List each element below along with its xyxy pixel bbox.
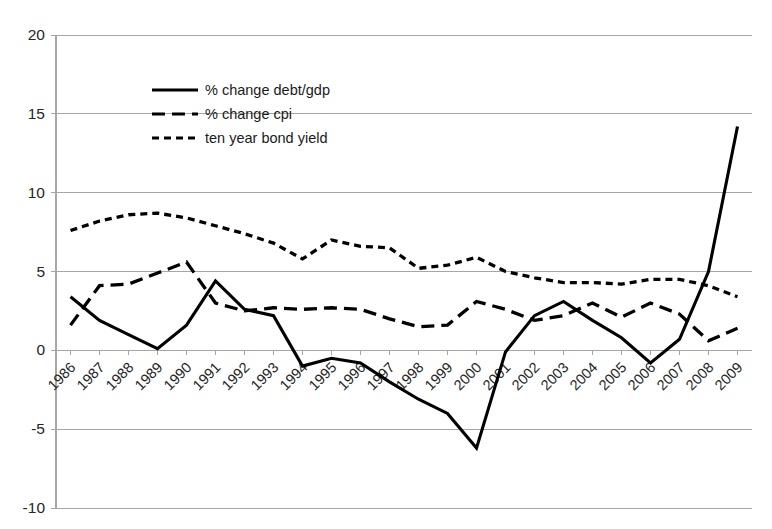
legend-label: % change cpi [205, 106, 292, 122]
x-axis-tick-label: 2000 [450, 359, 484, 393]
x-axis-tick-label: 2008 [682, 359, 716, 393]
series-line-ten-year-bond-yield [71, 213, 738, 297]
x-axis-tick-label: 2004 [566, 359, 600, 393]
series-line--change-debt-gdp [71, 126, 738, 448]
x-axis-tick-label: 1991 [189, 359, 223, 393]
x-axis-tick-label: 2003 [537, 359, 571, 393]
x-axis-tick-label: 1987 [73, 359, 107, 393]
y-axis-tick-label: 10 [28, 184, 46, 201]
x-axis-tick-label: 2006 [624, 359, 658, 393]
y-axis-tick-label: 5 [36, 263, 45, 280]
x-axis-tick-label: 2007 [653, 359, 687, 393]
legend-label: % change debt/gdp [205, 82, 330, 98]
y-axis-tick-label: 20 [28, 26, 46, 43]
x-axis-tick-label: 2005 [595, 359, 629, 393]
x-axis-tick-label: 2009 [711, 359, 745, 393]
y-axis-tick-label: -10 [23, 499, 46, 516]
x-axis-tick-label: 1990 [160, 359, 194, 393]
line-chart: 20151050-5-10198619871988198919901991199… [0, 0, 772, 529]
chart-container: 20151050-5-10198619871988198919901991199… [0, 0, 772, 529]
x-axis-tick-label: 1999 [421, 359, 455, 393]
y-axis-tick-label: -5 [31, 420, 45, 437]
y-axis-tick-label: 0 [36, 341, 45, 358]
x-axis-tick-label: 1989 [131, 359, 165, 393]
series-line--change-cpi [71, 262, 738, 341]
x-axis-tick-label: 1993 [247, 359, 281, 393]
x-axis-tick-label: 1988 [102, 359, 136, 393]
x-axis-tick-label: 2002 [508, 359, 542, 393]
x-axis-tick-label: 1992 [218, 359, 252, 393]
legend-label: ten year bond yield [205, 130, 328, 146]
y-axis-tick-label: 15 [28, 105, 45, 122]
x-axis-tick-label: 1986 [44, 359, 78, 393]
